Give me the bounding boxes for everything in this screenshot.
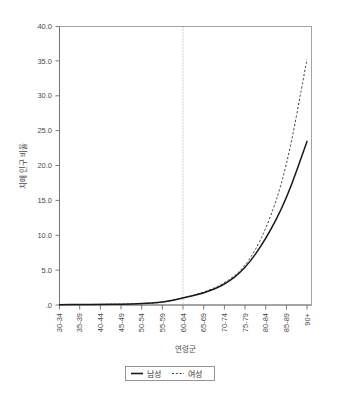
x-tick-label: 45-49 [117,313,126,332]
y-axis-title: 치매 인구 비율 [18,143,28,189]
y-tick-label: 25.0 [37,126,52,135]
y-tick-label: 10.0 [37,231,52,240]
chart-legend: 남성 여성 [126,367,215,381]
x-tick-label: 40-44 [96,313,105,332]
y-tick-label: .0 [46,301,52,310]
x-tick-label: 85-89 [282,313,291,332]
x-axis-title: 연령군 [175,345,196,354]
legend-label-female: 여성 [188,369,202,379]
x-tick-label: 55-59 [158,313,167,332]
x-tick-label: 60-64 [179,313,188,332]
y-tick-label: 30.0 [37,91,52,100]
y-tick-label: 20.0 [37,161,52,170]
x-tick-label: 30-34 [55,313,64,332]
y-tick-label: 35.0 [37,57,52,66]
chart-container: .0 5.0 10.0 15.0 20.0 25.0 30.0 35.0 40.… [0,0,337,400]
x-tick-label: 65-69 [199,313,208,332]
y-tick-label: 15.0 [37,196,52,205]
legend-label-male: 남성 [147,370,161,379]
x-tick-label: 35-39 [75,313,84,332]
x-tick-label: 50-54 [137,313,146,332]
x-tick-label: 75-79 [241,313,250,332]
y-tick-label: 5.0 [42,266,52,275]
plot-area [60,27,312,306]
x-tick-label: 90+ [303,312,312,325]
x-tick-label: 80-84 [261,313,270,332]
y-axis-ticks: .0 5.0 10.0 15.0 20.0 25.0 30.0 35.0 40.… [37,22,59,310]
x-tick-label: 70-74 [220,313,229,332]
x-axis-tick-labels: 30-34 35-39 40-44 45-49 50-54 55-59 60-6… [55,312,312,332]
y-tick-label: 40.0 [37,22,52,31]
x-axis-ticks [60,305,308,310]
line-chart: .0 5.0 10.0 15.0 20.0 25.0 30.0 35.0 40.… [0,0,337,400]
